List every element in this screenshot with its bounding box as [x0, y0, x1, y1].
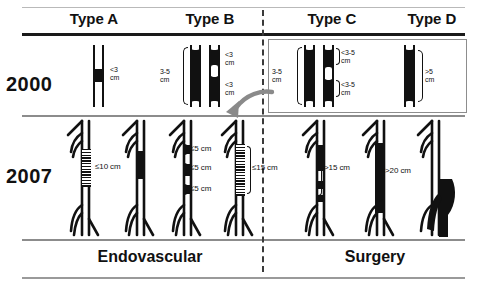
brace-type-b-2000 [183, 47, 188, 105]
rule-baseline [22, 277, 465, 279]
lesion-occlusion [306, 49, 314, 103]
artery-type-a-2007-right [113, 119, 159, 237]
measurement-type-b-2007-1: ≤5 cm [190, 145, 211, 154]
lumen-gap [211, 45, 217, 50]
measurement-type-b-2000-extent: 3-5 cm [160, 68, 170, 84]
measurement-type-c-2000-upper: <3-5 cm [341, 49, 355, 65]
lumen-gap [306, 45, 312, 50]
lesion-occlusion [192, 49, 200, 103]
treatment-label-surgery: Surgery [300, 248, 450, 266]
brace-type-c-2007 [318, 146, 322, 196]
tasc-classification-figure: Type A Type B Type C Type D 2000 2007 <3… [0, 0, 477, 286]
artery-type-a-2007-left [58, 119, 104, 237]
lumen-gap [306, 101, 312, 107]
rule-bottom [22, 239, 465, 241]
vessel-type-d-2000 [404, 45, 415, 107]
lumen-gap [211, 65, 217, 77]
vessel-type-a-2000 [93, 45, 104, 107]
measurement-type-d-2000: >5 cm [425, 68, 434, 84]
lumen-gap [406, 101, 412, 107]
measurement-type-d-2007: >20 cm [385, 167, 411, 176]
artery-type-b-2007-left [160, 119, 206, 237]
brace-type-c-2000-lower [336, 80, 340, 97]
brace-type-d-2007 [379, 146, 383, 202]
lumen-gap [325, 67, 331, 80]
treatment-divider [262, 10, 264, 272]
column-header-type-d: Type D [392, 10, 472, 27]
row-label-2007: 2007 [6, 165, 53, 188]
lesion-occlusion [95, 69, 103, 82]
brace-type-c-2000 [297, 47, 302, 105]
row-label-2000: 2000 [6, 73, 53, 96]
measurement-type-b-2007-3: ≤5 cm [190, 185, 211, 194]
brace-type-b-2007-4 [247, 146, 251, 194]
vessel-type-c-2000-left [304, 45, 315, 107]
lumen-gap [325, 101, 331, 107]
measurement-type-c-2000-lower: <3-5 cm [341, 81, 355, 97]
lesion-stenosis-type-b-2007 [236, 144, 245, 196]
measurement-type-c-2007: >15 cm [324, 164, 350, 173]
column-header-type-c: Type C [282, 10, 382, 27]
lumen-gap [192, 101, 198, 107]
measurement-type-b-2007-4: ≤15 cm [252, 164, 278, 173]
artery-type-b-2007-right [212, 119, 258, 237]
brace-type-d-2000 [418, 50, 423, 102]
measurement-type-a-2000: <3 cm [110, 66, 119, 82]
rule-top [22, 7, 465, 8]
vessel-type-c-2000-right [323, 45, 334, 107]
lumen-gap [406, 45, 412, 50]
treatment-label-endovascular: Endovascular [60, 248, 240, 266]
brace-type-c-2000-upper [336, 48, 340, 65]
measurement-type-b-2000-upper: <3 cm [225, 51, 234, 67]
measurement-type-c-2000-extent: 3-5 cm [272, 68, 282, 84]
column-header-type-b: Type B [160, 10, 260, 27]
rule-header [22, 33, 465, 36]
lesion-stenosis-type-a-2007 [82, 149, 91, 187]
lumen-gap [325, 45, 331, 50]
vessel-type-b-2000-left [190, 45, 201, 107]
lesion-occlusion [406, 49, 414, 103]
column-header-type-a: Type A [44, 10, 144, 27]
measurement-type-b-2007-2: ≤5 cm [190, 164, 211, 173]
artery-type-d-2007-left [353, 119, 399, 237]
lumen-gap [192, 45, 198, 50]
artery-type-c-2007 [293, 119, 339, 237]
artery-type-d-2007-right [408, 119, 464, 237]
